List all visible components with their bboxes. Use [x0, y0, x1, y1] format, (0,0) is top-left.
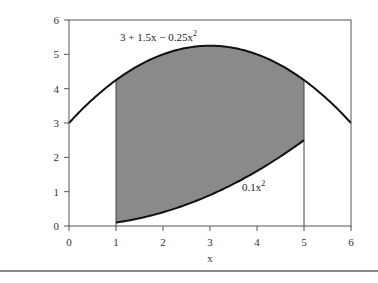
y-tick-label: 2 [54, 151, 60, 163]
y-tick-label: 6 [54, 14, 60, 26]
area-between-curves-chart: 0123456 0123456 x 3 + 1.5x − 0.25x2 0.1x… [0, 0, 378, 283]
x-axis-label: x [207, 252, 213, 264]
lower-curve-label: 0.1x2 [242, 179, 265, 193]
x-tick-label: 1 [113, 236, 119, 248]
x-tick-label: 0 [66, 236, 72, 248]
x-tick-label: 2 [160, 236, 166, 248]
x-tick-label: 4 [254, 236, 260, 248]
x-tick-label: 3 [207, 236, 213, 248]
x-tick-label: 5 [301, 236, 307, 248]
bottom-divider [0, 270, 378, 272]
upper-curve-label: 3 + 1.5x − 0.25x2 [120, 29, 197, 43]
y-tick-label: 1 [54, 186, 60, 198]
y-tick-label: 4 [54, 83, 60, 95]
y-tick-label: 5 [54, 48, 60, 60]
x-axis-ticks: 0123456 [66, 226, 354, 248]
x-tick-label: 6 [348, 236, 354, 248]
y-axis-ticks: 0123456 [54, 14, 70, 232]
y-tick-label: 3 [54, 117, 60, 129]
y-tick-label: 0 [54, 220, 60, 232]
